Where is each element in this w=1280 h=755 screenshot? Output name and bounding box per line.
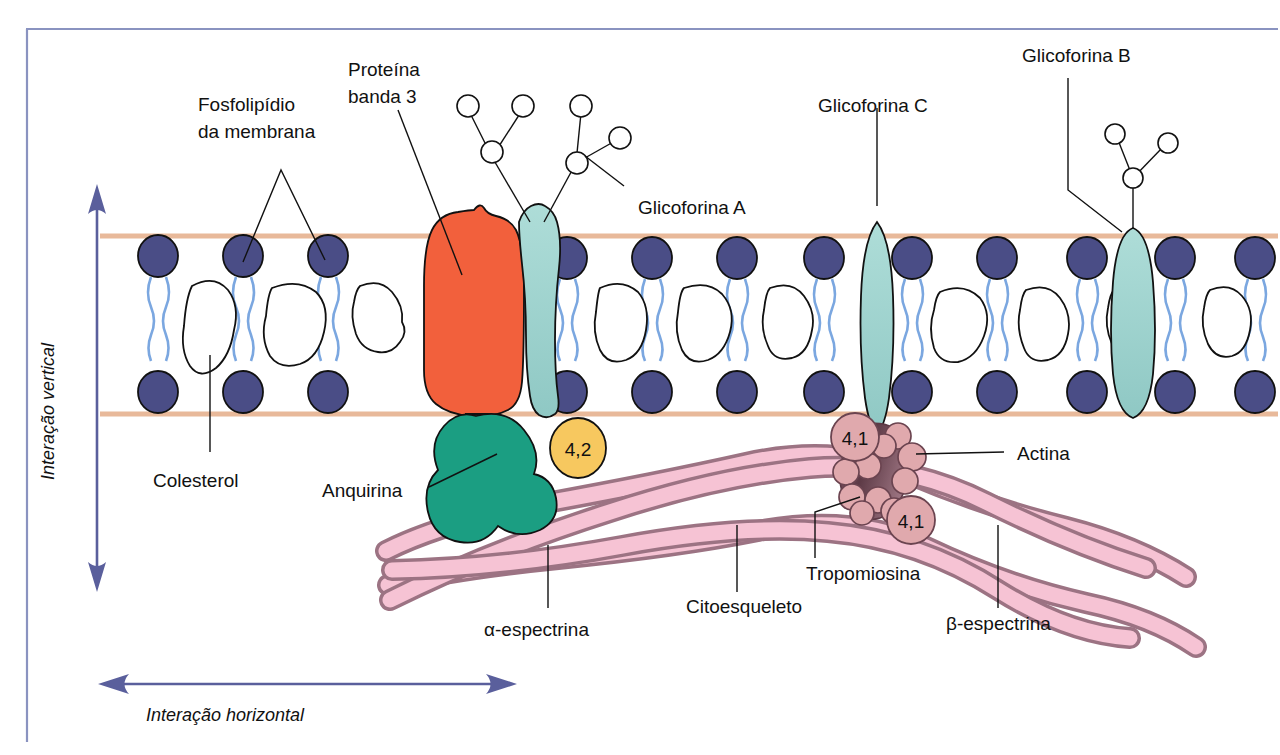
phospholipid-molecule xyxy=(892,237,932,361)
label-horizontal-interaction: Interação horizontal xyxy=(146,705,305,725)
phospholipid-molecule xyxy=(1155,237,1195,361)
protein-4-1-upper-label: 4,1 xyxy=(842,428,868,449)
protein-4-1-lower: 4,1 xyxy=(887,496,935,544)
phospholipid-molecule xyxy=(138,235,178,361)
arrow-head-up xyxy=(88,184,106,214)
leader-glycophorin-a xyxy=(585,156,624,186)
label-beta-spectrin: β-espectrina xyxy=(946,613,1051,634)
label-glycophorin-a: Glicoforina A xyxy=(638,197,746,218)
actin-bead xyxy=(898,443,926,471)
phospholipid-head xyxy=(977,371,1017,413)
actin-bead xyxy=(850,501,874,525)
phospholipid-head xyxy=(1155,371,1195,413)
phospholipid-molecule xyxy=(977,237,1017,361)
protein-4-1-upper: 4,1 xyxy=(831,413,879,461)
label-band3-line1: Proteína xyxy=(348,59,420,80)
phospholipid-head xyxy=(1067,371,1107,413)
label-glycophorin-b: Glicoforina B xyxy=(1022,45,1131,66)
glycophorin-b-glycan xyxy=(1105,124,1178,228)
label-phospholipid-line1: Fosfolipídio xyxy=(198,94,295,115)
phospholipid-molecule xyxy=(1067,237,1107,361)
cholesterol-molecule xyxy=(352,283,404,352)
label-cytoskeleton: Citoesqueleto xyxy=(686,596,802,617)
arrow-head-left xyxy=(98,674,129,694)
protein-4-2[interactable]: 4,2 xyxy=(550,418,606,478)
leader-actina xyxy=(916,452,1004,454)
label-ankyrin: Anquirina xyxy=(322,480,403,501)
label-tropomyosin: Tropomiosina xyxy=(806,563,921,584)
cholesterol-molecule xyxy=(1203,287,1251,357)
label-glycophorin-c: Glicoforina C xyxy=(818,95,928,116)
protein-4-2-label: 4,2 xyxy=(565,439,591,460)
label-cholesterol: Colesterol xyxy=(153,470,239,491)
label-phospholipid-line2: da membrana xyxy=(198,121,316,142)
phospholipid-head xyxy=(223,371,263,413)
horizontal-interaction-indicator: Interação horizontal xyxy=(98,674,517,725)
leader-glycophorin-b xyxy=(1068,78,1122,232)
phospholipid-head xyxy=(632,371,672,413)
glycophorin-a-glycan-left xyxy=(457,95,534,222)
cholesterol-molecule xyxy=(1019,287,1069,360)
label-band3-line2: banda 3 xyxy=(348,86,417,107)
arrow-head-right xyxy=(486,674,517,694)
phospholipid-molecule xyxy=(804,237,844,361)
cholesterol-molecule xyxy=(931,288,987,362)
phospholipid-head xyxy=(1235,371,1275,413)
cholesterol-molecule xyxy=(763,285,813,358)
cholesterol-group xyxy=(183,281,1251,374)
phospholipid-head xyxy=(717,371,757,413)
arrow-head-down xyxy=(88,562,106,592)
label-vertical-interaction: Interação vertical xyxy=(38,342,58,480)
actin-bead xyxy=(833,459,859,485)
figure-root: 4,2 4,1 4,1 xyxy=(0,0,1280,755)
phospholipid-head xyxy=(308,371,348,413)
label-actin: Actina xyxy=(1017,443,1070,464)
actin-bead xyxy=(892,468,918,494)
vertical-interaction-indicator: Interação vertical xyxy=(38,184,106,592)
phospholipid-inner-leaflet xyxy=(138,371,1275,413)
glycophorin-c-protein[interactable] xyxy=(861,222,894,434)
phospholipid-head xyxy=(892,371,932,413)
cholesterol-molecule xyxy=(595,284,647,362)
protein-4-1-lower-label: 4,1 xyxy=(898,511,924,532)
phospholipid-head xyxy=(804,371,844,413)
cholesterol-molecule xyxy=(264,284,326,366)
phospholipid-head xyxy=(138,371,178,413)
label-alpha-spectrin: α-espectrina xyxy=(484,619,589,640)
cholesterol-molecule xyxy=(677,285,732,362)
erythrocyte-membrane-diagram: 4,2 4,1 4,1 xyxy=(0,0,1280,755)
